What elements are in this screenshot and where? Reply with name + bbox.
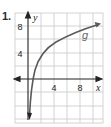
x-axis-right-arrow-icon	[96, 77, 102, 82]
x-tick-4: 4	[51, 83, 56, 93]
y-axis-label: y	[32, 12, 38, 23]
y-tick-8: 8	[17, 22, 22, 32]
x-tick-8: 8	[77, 83, 82, 93]
y-tick-4: 4	[17, 49, 22, 59]
function-label-g: g	[82, 29, 89, 41]
x-axis-label: x	[95, 82, 101, 93]
graph: 8 4 4 8 y x g	[0, 0, 111, 127]
